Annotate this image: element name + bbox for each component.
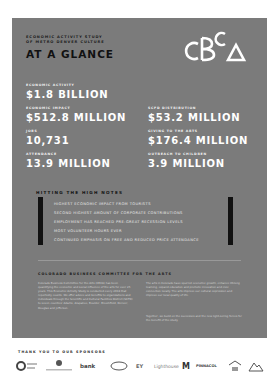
stat-label-jobs: Jobs (26, 129, 37, 133)
high-note-item: Continued emphasis on free and reduced p… (54, 238, 199, 242)
high-notes-box: Highest economic impact from tourists Se… (38, 197, 233, 245)
about-left-paragraph: Colorado Business Committee for the Arts… (38, 281, 134, 310)
stat-label-economic-activity: Economic Activity (26, 83, 75, 87)
eyebrow-line-1: Economic Activity Study (26, 35, 103, 39)
stat-value-attendance: 13.9 MILLION (26, 158, 111, 169)
stat-label-outreach-children: Outreach to Children (148, 152, 207, 156)
high-note-item: Most volunteer hours ever (54, 229, 122, 233)
cbca-logo-icon (184, 28, 248, 68)
stat-label-giving-to-arts: Giving to the Arts (148, 129, 198, 133)
section-divider (38, 260, 241, 261)
stat-label-attendance: Attendance (26, 152, 57, 156)
about-title: Colorado Business Committee for the Arts (38, 272, 172, 276)
stat-value-giving-to-arts: $176.4 MILLION (148, 135, 248, 146)
sponsor-ey-logo: EY (136, 358, 143, 374)
sponsor-mountain-logo-icon (248, 358, 264, 374)
high-note-item: Employment has reached pre-great recessi… (54, 220, 183, 224)
stat-value-jobs: 10,731 (26, 135, 69, 146)
sponsor-community-foundation-icon (44, 358, 74, 374)
high-notes-title: Hitting the High Notes (36, 190, 123, 195)
page-title: AT A GLANCE (26, 49, 114, 60)
sponsor-circle-logo-icon (16, 358, 38, 374)
sponsor-logos: bank EY Lighthouse M PINNACOL (14, 358, 266, 376)
sponsor-pinnacol-logo: PINNACOL (196, 358, 217, 374)
sponsors-title: Thank you to our sponsors (18, 350, 106, 354)
high-note-item: Highest economic impact from tourists (54, 202, 151, 206)
stat-value-outreach-children: 3.9 MILLION (148, 158, 225, 169)
stat-value-economic-activity: $1.8 BILLION (26, 89, 108, 100)
stat-value-economic-impact: $512.8 MILLION (26, 112, 126, 123)
eyebrow-line-2: of Metro Denver Culture (26, 40, 105, 44)
stat-value-scfd-distribution: $53.2 MILLION (148, 112, 241, 123)
about-right-paragraph-2: Together, we build on the successes and … (146, 314, 242, 322)
sponsor-bank-logo: bank (80, 358, 95, 374)
sponsor-oval-logo-icon (110, 358, 128, 374)
sponsor-house-logo-icon (228, 358, 242, 374)
stat-label-economic-impact: Economic Impact (26, 106, 70, 110)
stat-label-scfd-distribution: SCFD Distribution (148, 106, 196, 110)
about-right-paragraph-1: The arts in Colorado have spurred econom… (146, 281, 242, 297)
sponsor-m-logo: M (182, 358, 190, 374)
high-note-item: Second highest amount of corporate contr… (54, 211, 183, 215)
sponsor-lighthouse-logo: Lighthouse (154, 358, 179, 374)
